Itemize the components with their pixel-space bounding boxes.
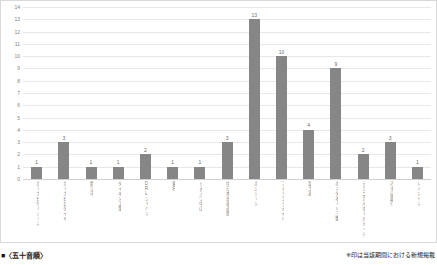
bar xyxy=(167,167,178,179)
y-axis-tick-0: 0 xyxy=(17,177,20,182)
y-axis-tick-3: 3 xyxy=(17,140,20,145)
bar-value-label: 1 xyxy=(35,160,38,165)
y-axis-tick-2: 2 xyxy=(17,152,20,157)
bar-column: 3 xyxy=(50,7,77,179)
bar-value-label: 2 xyxy=(144,148,147,153)
chart-card: 01234567891011121314 13112113131049231 カ… xyxy=(0,0,437,243)
bar xyxy=(194,167,205,179)
x-axis-label: テクニカルホールディングス xyxy=(361,181,366,237)
bar xyxy=(412,167,423,179)
x-axis-label: DRLジャパン xyxy=(143,181,148,216)
y-axis-tick-8: 8 xyxy=(17,78,20,83)
bar-value-label: 4 xyxy=(307,123,310,128)
y-axis-tick-13: 13 xyxy=(14,17,20,22)
x-axis-label: 中日本高速道路 xyxy=(225,181,230,216)
y-axis-tick-6: 6 xyxy=(17,103,20,108)
bar-value-label: 13 xyxy=(251,13,257,18)
x-axis-label-column: 中日本高速道路 xyxy=(213,181,240,239)
bar xyxy=(222,142,233,179)
x-axis-label: みずほ銀行 xyxy=(388,181,393,206)
y-axis-tick-12: 12 xyxy=(14,29,20,34)
bar-value-label: 2 xyxy=(362,148,365,153)
bar-value-label: 1 xyxy=(416,160,419,165)
x-axis-label: 東名 xyxy=(170,181,175,191)
bar-value-label: 1 xyxy=(117,160,120,165)
bar-value-label: 10 xyxy=(279,50,285,55)
bar-column: 1 xyxy=(159,7,186,179)
bar-column: 4 xyxy=(295,7,322,179)
x-axis-label-column: ポジション xyxy=(241,181,268,239)
bar xyxy=(276,56,287,179)
bar-column: 9 xyxy=(322,7,349,179)
gridline-0: 0 xyxy=(23,179,431,180)
bar-value-label: 3 xyxy=(226,136,229,141)
bar xyxy=(358,154,369,179)
bar-column: 13 xyxy=(241,7,268,179)
bar-column: 2 xyxy=(132,7,159,179)
x-axis-label: カーナビゲーション xyxy=(34,181,39,226)
x-axis-label-column: 東名 xyxy=(159,181,186,239)
y-axis-tick-5: 5 xyxy=(17,115,20,120)
x-axis-label: ポジション xyxy=(252,181,257,206)
bar-value-label: 1 xyxy=(90,160,93,165)
x-axis-label-column: トヌスワ中山 xyxy=(186,181,213,239)
bar-column: 1 xyxy=(23,7,50,179)
chart-plot-area: 01234567891011121314 13112113131049231 xyxy=(23,7,431,179)
y-axis-tick-4: 4 xyxy=(17,127,20,132)
bar xyxy=(385,142,396,179)
x-axis-label-column: フォーラーデイト xyxy=(268,181,295,239)
bar-value-label: 1 xyxy=(171,160,174,165)
x-axis-label-column: ホンダオート三重 xyxy=(322,181,349,239)
bar-column: 2 xyxy=(349,7,376,179)
x-axis-label: カーナビとタイヤ xyxy=(61,181,66,221)
bar-column: 1 xyxy=(77,7,104,179)
bar xyxy=(58,142,69,179)
y-axis-tick-10: 10 xyxy=(14,54,20,59)
y-axis-tick-11: 11 xyxy=(15,41,20,46)
bar xyxy=(86,167,97,179)
bar-value-label: 9 xyxy=(334,62,337,67)
bar-column: 1 xyxy=(186,7,213,179)
x-axis-label: 静江市 xyxy=(89,181,94,196)
x-axis-label-column: みずほ銀行 xyxy=(377,181,404,239)
x-axis-label: ダイキン工業 xyxy=(116,181,121,211)
bar-column: 1 xyxy=(105,7,132,179)
bar-series: 13112113131049231 xyxy=(23,7,431,179)
bar-column: 3 xyxy=(377,7,404,179)
x-axis-label: レミントン xyxy=(415,181,420,206)
bar-column: 10 xyxy=(268,7,295,179)
x-axis-label-column: テクニカルホールディングス xyxy=(349,181,376,239)
chart-footer: ■〈五十音順〉 ※印は当該期間における新規掲載 xyxy=(0,243,437,265)
y-axis-tick-7: 7 xyxy=(17,91,20,96)
bar xyxy=(113,167,124,179)
x-axis-label-column: カーナビゲーション xyxy=(23,181,50,239)
footer-left-note: ■〈五十音順〉 xyxy=(1,252,47,259)
x-axis-label: フォーラーデイト xyxy=(279,181,284,221)
bar xyxy=(140,154,151,179)
x-axis-label-column: DRLジャパン xyxy=(132,181,159,239)
x-axis-label: ホンダオート三重 xyxy=(333,181,338,221)
x-axis-labels: カーナビゲーションカーナビとタイヤ静江市ダイキン工業DRLジャパン東名トヌスワ中… xyxy=(23,181,431,239)
bar-value-label: 3 xyxy=(62,136,65,141)
x-axis-label-column: ダイキン工業 xyxy=(105,181,132,239)
x-axis-label: 富士通 xyxy=(306,181,311,196)
y-axis-tick-14: 14 xyxy=(14,5,20,10)
x-axis-label-column: カーナビとタイヤ xyxy=(50,181,77,239)
x-axis-label-column: レミントン xyxy=(404,181,431,239)
footer-right-note: ※印は当該期間における新規掲載 xyxy=(346,252,435,258)
x-axis-label-column: 静江市 xyxy=(77,181,104,239)
bar-value-label: 3 xyxy=(389,136,392,141)
x-axis-label: トヌスワ中山 xyxy=(197,181,202,211)
bar xyxy=(303,130,314,179)
y-axis-tick-1: 1 xyxy=(17,164,20,169)
y-axis-tick-9: 9 xyxy=(17,66,20,71)
x-axis-label-column: 富士通 xyxy=(295,181,322,239)
bar xyxy=(330,68,341,179)
bar xyxy=(249,19,260,179)
bar xyxy=(31,167,42,179)
bar-value-label: 1 xyxy=(198,160,201,165)
bar-column: 3 xyxy=(213,7,240,179)
bar-column: 1 xyxy=(404,7,431,179)
